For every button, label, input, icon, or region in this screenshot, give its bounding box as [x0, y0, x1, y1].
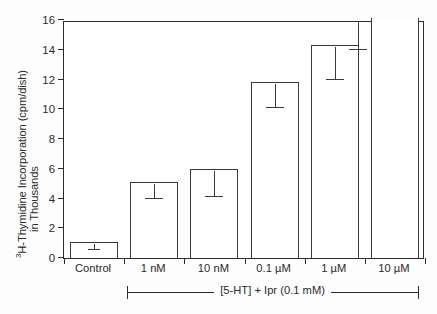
error-bar-cap — [205, 196, 223, 197]
error-bar-cap — [266, 107, 284, 108]
y-axis-tick: 4 — [58, 198, 64, 199]
y-axis-tick-label: 0 — [49, 252, 55, 264]
error-bar — [358, 22, 359, 49]
x-axis-tick-label: 1 µM — [321, 262, 346, 274]
plot-area: 0246810121416 — [63, 21, 424, 259]
x-axis-tick — [425, 258, 426, 264]
y-axis-tick: 16 — [58, 19, 64, 20]
x-axis-tick-label: 10 µM — [378, 262, 409, 274]
y-axis-title-line2: in Thousands — [28, 166, 40, 232]
y-axis-tick: 6 — [58, 168, 64, 169]
y-axis-tick-label: 6 — [49, 163, 55, 175]
bar — [251, 82, 299, 258]
y-axis-tick-label: 2 — [49, 222, 55, 234]
error-bar — [275, 84, 276, 106]
y-axis-tick: 2 — [58, 227, 64, 228]
error-bar-cap — [88, 249, 100, 250]
bracket-line-right — [331, 292, 418, 293]
error-bar-cap — [349, 49, 367, 50]
y-axis-tick: 14 — [58, 49, 64, 50]
y-axis-title-line1-text: H-Thymidine Incorporation (cpm/dish) — [16, 70, 28, 254]
bar — [371, 18, 419, 258]
error-bar-cap — [145, 198, 163, 199]
y-axis-tick-label: 10 — [42, 103, 55, 115]
chart-figure: 3H-Thymidine Incorporation (cpm/dish) in… — [0, 0, 437, 314]
x-axis-tick-labels: Control1 nM10 nM0.1 µM1 µM10 µM — [63, 262, 424, 280]
x-axis-tick-label: 1 nM — [141, 262, 166, 274]
y-axis-tick-label: 8 — [49, 133, 55, 145]
x-axis-tick-label: 0.1 µM — [256, 262, 290, 274]
bracket-tick-left — [127, 286, 128, 299]
error-bar — [154, 184, 155, 197]
bracket-line-left — [127, 292, 214, 293]
error-bar-cap — [326, 79, 344, 80]
error-bar — [214, 171, 215, 196]
y-axis-tick-label: 12 — [42, 74, 55, 86]
y-axis-title-line1: 3H-Thymidine Incorporation (cpm/dish) — [14, 70, 28, 258]
bracket-label: [5-HT] + Ipr (0.1 mM) — [220, 284, 325, 296]
y-axis-tick: 8 — [58, 138, 64, 139]
y-axis-tick: 10 — [58, 108, 64, 109]
y-axis-title: 3H-Thymidine Incorporation (cpm/dish) in… — [0, 0, 44, 266]
bracket-tick-right — [418, 286, 419, 299]
y-axis-tick-label: 4 — [49, 193, 55, 205]
x-axis-tick-label: 10 nM — [198, 262, 229, 274]
x-axis-tick-label: Control — [75, 262, 111, 274]
error-bar — [335, 47, 336, 78]
y-axis-tick-label: 14 — [42, 44, 55, 56]
x-axis-group-bracket: [5-HT] + Ipr (0.1 mM) — [0, 284, 437, 310]
y-axis-tick-label: 16 — [42, 14, 55, 26]
y-axis-title-superscript: 3 — [14, 254, 23, 258]
y-axis-tick: 12 — [58, 79, 64, 80]
